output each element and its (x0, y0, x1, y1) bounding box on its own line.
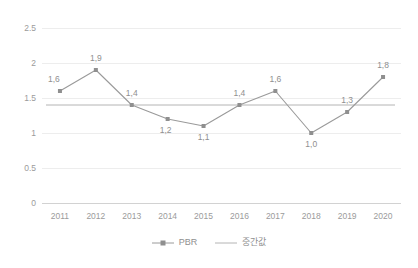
chart-legend: PBR 중간값 (0, 238, 418, 247)
data-point-label: 1,1 (190, 133, 218, 142)
y-tick-label: 1.5 (6, 94, 36, 103)
data-point-label: 1,4 (118, 89, 146, 98)
x-tick-label: 2019 (329, 212, 365, 221)
data-point-label: 1,0 (297, 140, 325, 149)
x-tick-label: 2020 (365, 212, 401, 221)
legend-line-icon (215, 239, 237, 247)
data-point-label: 1,8 (369, 61, 397, 70)
y-tick-label: 0 (6, 199, 36, 208)
legend-marker-line-icon (152, 239, 174, 247)
pbr-line-chart: 00.511.522.5 201120122013201420152016201… (0, 0, 418, 268)
x-tick-label: 2016 (221, 212, 257, 221)
x-tick-label: 2018 (293, 212, 329, 221)
legend-label-pbr: PBR (179, 238, 198, 247)
x-tick-label: 2017 (257, 212, 293, 221)
y-tick-label: 2 (6, 59, 36, 68)
data-point-label: 1,6 (261, 75, 289, 84)
legend-item-pbr[interactable]: PBR (152, 238, 198, 247)
y-tick-label: 0.5 (6, 164, 36, 173)
x-tick-label: 2013 (114, 212, 150, 221)
x-tick-label: 2015 (186, 212, 222, 221)
y-tick-label: 1 (6, 129, 36, 138)
data-point-label: 1,3 (333, 96, 361, 105)
legend-label-median: 중간값 (242, 238, 266, 247)
data-point-label: 1,4 (225, 89, 253, 98)
x-tick-label: 2014 (150, 212, 186, 221)
x-tick-label: 2011 (42, 212, 78, 221)
data-point-label: 1,2 (152, 126, 180, 135)
data-point-label: 1,9 (82, 54, 110, 63)
x-tick-label: 2012 (78, 212, 114, 221)
legend-item-median[interactable]: 중간값 (215, 238, 266, 247)
data-point-label: 1,6 (40, 75, 68, 84)
y-tick-label: 2.5 (6, 24, 36, 33)
